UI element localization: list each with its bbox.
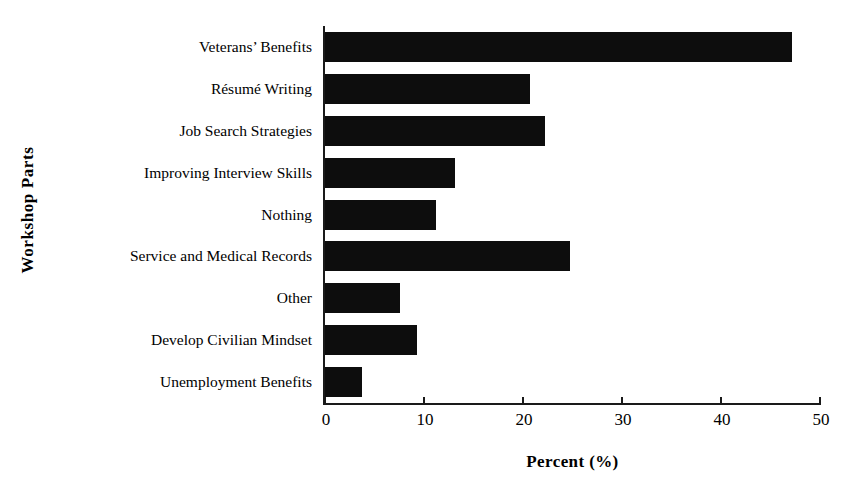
x-axis-line <box>323 403 820 405</box>
plot-area: 01020304050 <box>325 26 820 403</box>
y-axis-tick-label: Develop Civilian Mindset <box>60 332 318 348</box>
bar <box>325 32 792 62</box>
y-axis-tick-label: Other <box>60 290 318 306</box>
bar <box>325 367 362 397</box>
x-axis-tick-label: 0 <box>296 410 356 430</box>
x-axis-tick-label: 20 <box>494 410 554 430</box>
bar <box>325 74 530 104</box>
x-axis-tick <box>423 397 425 405</box>
bar-chart: Workshop Parts Veterans’ BenefitsRésumé … <box>0 0 868 501</box>
x-axis-tick <box>621 397 623 405</box>
x-axis-tick <box>819 397 821 405</box>
y-axis-tick-label: Veterans’ Benefits <box>60 39 318 55</box>
x-axis-tick <box>324 397 326 405</box>
x-axis-tick-label: 40 <box>692 410 752 430</box>
bar <box>325 283 400 313</box>
bar <box>325 325 417 355</box>
bar <box>325 200 436 230</box>
x-axis-title: Percent (%) <box>325 452 820 472</box>
y-axis-title: Workshop Parts <box>0 0 56 420</box>
x-axis-tick-label: 30 <box>593 410 653 430</box>
x-axis-tick-label: 10 <box>395 410 455 430</box>
bar <box>325 241 570 271</box>
y-axis-tick-label: Job Search Strategies <box>60 123 318 139</box>
y-axis-tick-label: Improving Interview Skills <box>60 165 318 181</box>
y-axis-tick-label: Unemployment Benefits <box>60 374 318 390</box>
y-axis-tick-label: Résumé Writing <box>60 81 318 97</box>
y-axis-tick-labels: Veterans’ BenefitsRésumé WritingJob Sear… <box>60 26 318 403</box>
bar <box>325 158 455 188</box>
bar <box>325 116 545 146</box>
x-axis-tick-label: 50 <box>791 410 851 430</box>
y-axis-tick-label: Nothing <box>60 207 318 223</box>
y-axis-title-text: Workshop Parts <box>18 147 38 274</box>
y-axis-tick-label: Service and Medical Records <box>60 248 318 264</box>
x-axis-tick <box>522 397 524 405</box>
x-axis-tick <box>720 397 722 405</box>
